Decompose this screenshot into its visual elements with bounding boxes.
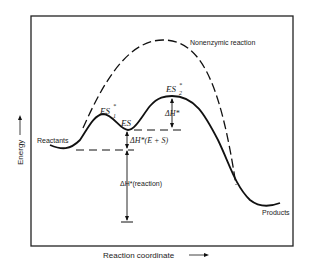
svg-text:1: 1 [113, 113, 116, 119]
es-label: ES [120, 118, 131, 128]
dh-es-label: ΔH*(E + S) [129, 136, 168, 145]
plot-frame [31, 16, 293, 246]
products-label: Products [262, 209, 290, 216]
es1-label: ES [99, 106, 110, 116]
nonenzymic-label: Nonenzymic reaction [190, 39, 255, 47]
x-axis-label: Reaction coordinate [103, 251, 175, 260]
y-axis-label-group: Energy [16, 140, 25, 165]
svg-text:2: 2 [179, 90, 182, 96]
svg-text:*: * [179, 82, 182, 88]
dh-star-label: ΔH* [164, 109, 179, 118]
y-axis-label: Energy [16, 140, 25, 165]
energy-diagram: Nonenzymic reaction Reactants Products E… [0, 0, 310, 266]
svg-text:*: * [113, 103, 116, 109]
es2-label: ES [165, 84, 176, 94]
dh-reaction-label: ΔH*(reaction) [120, 180, 162, 188]
reactants-label: Reactants [37, 137, 69, 144]
